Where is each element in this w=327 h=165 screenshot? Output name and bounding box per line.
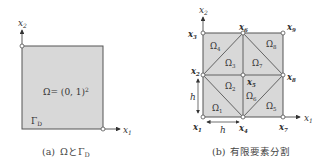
h-vertical-label: h <box>190 92 196 102</box>
h-horizontal-label: h <box>220 125 226 135</box>
node-x1 <box>201 115 205 119</box>
node-label-x3: x3 <box>187 29 197 40</box>
node-label-x1: x1 <box>192 122 202 133</box>
node-label-x4: x4 <box>238 123 248 134</box>
node-label-x8: x8 <box>286 72 296 83</box>
node-x4 <box>241 115 245 119</box>
node-x5 <box>241 73 245 77</box>
node-x2 <box>201 73 205 77</box>
x2-axis-label: x2 <box>199 5 208 16</box>
figure: x1 x2 Ω= (0, 1)2 ΓD (a)ΩとΓD x1 x2 x1 x2 <box>0 0 327 165</box>
domain-label: Ω= (0, 1)2 <box>43 86 89 97</box>
node-x9 <box>281 31 285 35</box>
x1-axis-label: x1 <box>123 125 132 136</box>
node-x8 <box>281 73 285 77</box>
caption-a: (a)ΩとΓD <box>42 146 90 159</box>
node-label-x6: x6 <box>238 22 248 33</box>
x2-axis-label: x2 <box>18 18 27 29</box>
node-label-x9: x9 <box>286 22 296 33</box>
panel-b: x1 x2 x1 x2 x3 x4 x5 x6 x7 x8 x9 Ω1 Ω2 Ω… <box>187 5 313 157</box>
node-label-x7: x7 <box>278 122 288 133</box>
caption-b: (b)有限要素分割 <box>212 146 290 157</box>
node-x7 <box>281 115 285 119</box>
node-bottom-right <box>101 127 105 131</box>
node-top-left <box>20 44 24 48</box>
x1-axis-label: x1 <box>304 113 313 124</box>
node-x3 <box>201 31 205 35</box>
node-label-x2: x2 <box>190 66 200 77</box>
panel-a: x1 x2 Ω= (0, 1)2 ΓD (a)ΩとΓD <box>18 18 132 159</box>
